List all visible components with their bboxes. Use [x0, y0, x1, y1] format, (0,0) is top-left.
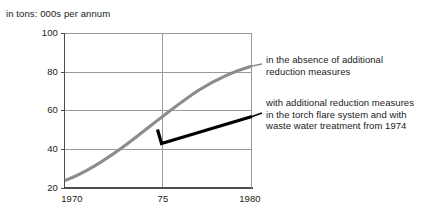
- y-tick-label-100: 100: [32, 28, 58, 38]
- annotation-with-measures-series: with additional reduction measures in th…: [266, 97, 426, 132]
- x-tick-label-1980: 1980: [230, 194, 270, 204]
- leader-with-measures: [252, 113, 262, 117]
- x-tick-label-75: 75: [143, 194, 183, 204]
- emissions-line-chart-figure: in tons: 000s per annum 100 80 6: [0, 0, 426, 211]
- y-tick-label-80: 80: [32, 67, 58, 77]
- leader-baseline: [252, 64, 262, 66]
- y-tick-label-20: 20: [32, 183, 58, 193]
- y-tick-label-60: 60: [32, 105, 58, 115]
- y-tick-label-40: 40: [32, 144, 58, 154]
- annotation-baseline-series: in the absence of additional reduction m…: [266, 54, 424, 77]
- x-tick-label-1970: 1970: [52, 194, 92, 204]
- series-line-with-measures: [158, 117, 253, 144]
